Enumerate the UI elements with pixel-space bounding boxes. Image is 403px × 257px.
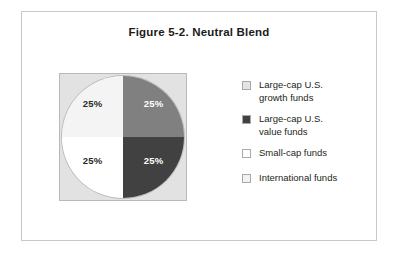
pie-slice-international[interactable]: 25% (123, 137, 184, 198)
legend-item-label: Small-cap funds (259, 147, 327, 160)
pie-slice-small-cap[interactable]: 25% (62, 137, 123, 198)
legend-item-small-cap[interactable]: Small-cap funds (242, 147, 372, 160)
legend-item-label: International funds (259, 172, 337, 185)
pie-slice-large-cap-value[interactable]: 25% (123, 76, 184, 137)
legend-swatch-icon (242, 81, 251, 90)
legend-swatch-icon (242, 149, 251, 158)
pie-slice-label: 25% (62, 98, 123, 109)
chart-legend: Large-cap U.S. growth funds Large-cap U.… (242, 79, 372, 193)
figure-frame: Figure 5-2. Neutral Blend 25% 25% 25% 25… (21, 11, 377, 241)
pie-chart: 25% 25% 25% 25% (62, 76, 184, 198)
pie-slice-large-cap-growth[interactable]: 25% (62, 76, 123, 137)
pie-slice-label: 25% (123, 98, 184, 109)
legend-swatch-icon (242, 115, 251, 124)
pie-slice-label: 25% (123, 155, 184, 166)
legend-item-international[interactable]: International funds (242, 172, 372, 185)
legend-item-large-cap-value[interactable]: Large-cap U.S. value funds (242, 113, 372, 138)
pie-slice-label: 25% (62, 155, 123, 166)
figure-title: Figure 5-2. Neutral Blend (22, 26, 376, 38)
legend-swatch-icon (242, 174, 251, 183)
legend-item-large-cap-growth[interactable]: Large-cap U.S. growth funds (242, 79, 372, 104)
pie-chart-plot-area: 25% 25% 25% 25% (59, 73, 187, 201)
legend-item-label: Large-cap U.S. growth funds (259, 79, 323, 104)
legend-item-label: Large-cap U.S. value funds (259, 113, 323, 138)
